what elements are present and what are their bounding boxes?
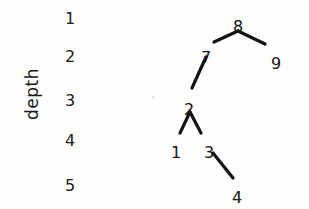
- tree-node-2: 2: [180, 100, 198, 119]
- depth-tick-2: 2: [60, 47, 80, 66]
- tree-node-3: 3: [200, 143, 218, 162]
- scan-speck: [152, 96, 154, 98]
- tree-node-9: 9: [267, 54, 285, 73]
- depth-tick-4: 4: [60, 131, 80, 150]
- figure-canvas: depth 12345 8792134: [0, 0, 309, 209]
- tree-node-7: 7: [197, 48, 215, 67]
- tree-edges-layer: [0, 0, 309, 209]
- tree-node-4: 4: [228, 188, 246, 207]
- depth-tick-1: 1: [60, 9, 80, 28]
- depth-tick-5: 5: [60, 176, 80, 195]
- depth-tick-3: 3: [60, 91, 80, 110]
- tree-node-8: 8: [229, 17, 247, 36]
- axis-label-depth: depth: [22, 68, 42, 120]
- tree-node-1: 1: [167, 143, 185, 162]
